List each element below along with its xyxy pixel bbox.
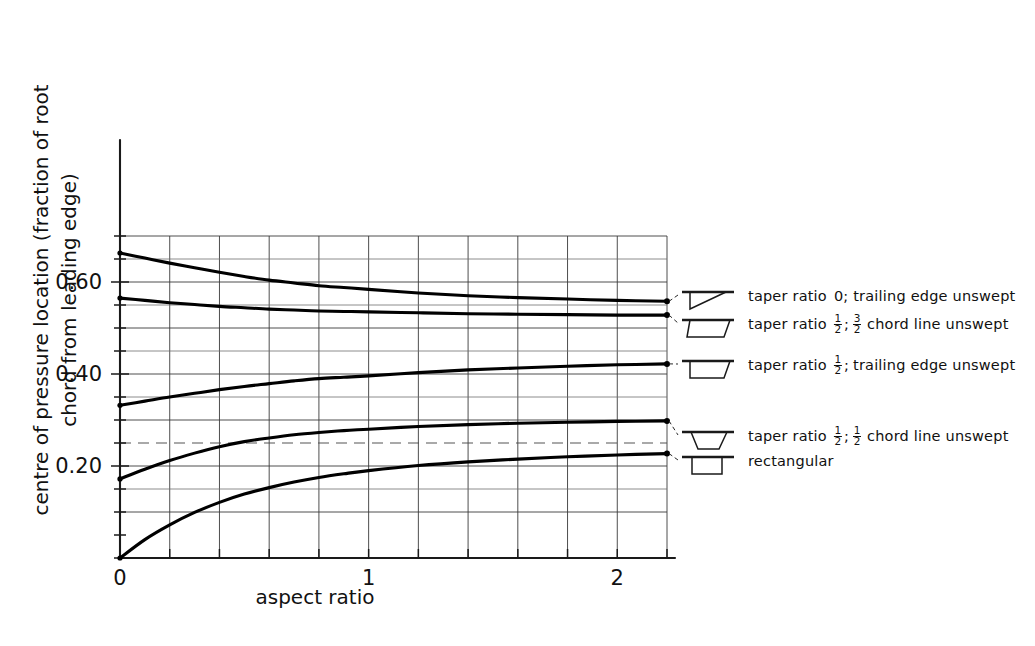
legend-row[interactable]: taper ratio12;12chord line unswept [669, 421, 1009, 449]
fraction-denominator: 2 [854, 323, 861, 335]
fraction-glyph: 12 [834, 424, 842, 447]
planform-icon-trapezoid-symmetric [682, 432, 734, 449]
legend-row[interactable]: taper ratio12;32chord line unswept [669, 312, 1009, 337]
fraction-glyph: 12 [853, 424, 861, 447]
legend-separator: ; [844, 357, 849, 373]
legend-label: taper ratio [748, 357, 827, 373]
fraction-glyph: 32 [853, 312, 861, 335]
legend-leader-line [669, 315, 678, 323]
legend-leader-line [669, 295, 678, 301]
legend-row[interactable]: taper ratio0; trailing edge unswept [669, 288, 1016, 309]
axes-layer [120, 140, 675, 558]
curve-start-marker [117, 296, 122, 301]
legend: taper ratio0; trailing edge unswepttaper… [669, 288, 1016, 474]
fraction-glyph: 12 [834, 312, 842, 335]
legend-label: taper ratio [748, 288, 827, 304]
legend-leader-line [669, 421, 678, 435]
curve-start-marker [117, 476, 122, 481]
fraction-denominator: 2 [835, 323, 842, 335]
curve-start-marker [117, 555, 122, 560]
curve-start-marker [117, 250, 122, 255]
legend-label: taper ratio [748, 428, 827, 444]
planform-outline [692, 457, 722, 474]
planform-outline [687, 320, 730, 337]
chart-figure: 012 0.200.400.60 taper ratio0; trailing … [0, 0, 1035, 646]
planform-outline [691, 432, 727, 449]
legend-label-detail: chord line unswept [867, 316, 1009, 332]
planform-icon-trapezoid-te-unswept [682, 361, 734, 378]
legend-row[interactable]: taper ratio12;trailing edge unswept [669, 353, 1015, 378]
legend-row[interactable]: rectangular [669, 453, 834, 474]
x-tick-label: 0 [113, 566, 126, 590]
x-axis-title: aspect ratio [256, 585, 375, 609]
planform-outline [690, 361, 730, 378]
legend-label-detail: 0; trailing edge unswept [834, 288, 1016, 304]
planform-icon-triangle-swept-te-unswept [682, 292, 734, 309]
data-curve-0 [120, 253, 667, 301]
x-tick-label: 2 [611, 566, 624, 590]
y-axis-title-line1: centre of pressure location (fraction of… [29, 84, 53, 515]
legend-label-detail: trailing edge unswept [853, 357, 1015, 373]
legend-separator: ; [844, 428, 849, 444]
centre-of-pressure-chart: 012 0.200.400.60 taper ratio0; trailing … [0, 0, 1035, 646]
fraction-glyph: 12 [834, 353, 842, 376]
data-curve-4 [120, 454, 667, 558]
planform-outline [690, 292, 726, 309]
curves-layer [117, 250, 670, 560]
y-axis-title-line2: chord from leading edge) [57, 173, 81, 427]
planform-icon-trapezoid-swept-32chord [682, 320, 734, 337]
legend-separator: ; [844, 316, 849, 332]
legend-label: rectangular [748, 453, 834, 469]
data-curve-3 [120, 421, 667, 479]
fraction-denominator: 2 [854, 435, 861, 447]
legend-label-detail: chord line unswept [867, 428, 1009, 444]
y-tick-label: 0.20 [55, 454, 102, 478]
curve-start-marker [117, 403, 122, 408]
planform-icon-rectangle [682, 457, 734, 474]
data-curve-2 [120, 364, 667, 405]
legend-leader-line [669, 454, 678, 460]
fraction-denominator: 2 [835, 364, 842, 376]
legend-label: taper ratio [748, 316, 827, 332]
fraction-denominator: 2 [835, 435, 842, 447]
